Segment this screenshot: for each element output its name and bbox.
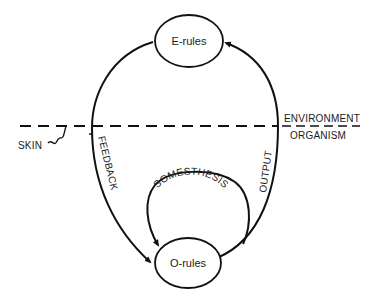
skin-label: SKIN bbox=[18, 140, 42, 151]
environment-label: ENVIRONMENT bbox=[284, 113, 360, 124]
e-rules-label: E-rules bbox=[172, 35, 207, 47]
organism-label: ORGANISM bbox=[290, 130, 346, 141]
o-rules-label: O-rules bbox=[170, 257, 207, 269]
somesthesis-label-path: SOMESTHESIS bbox=[151, 165, 231, 190]
e-rules-node: E-rules bbox=[155, 15, 223, 67]
skin-pointer bbox=[48, 126, 66, 144]
feedback-loop-diagram: E-rules O-rules ENVIRONMENT ORGANISM SKI… bbox=[0, 0, 375, 299]
o-rules-node: O-rules bbox=[155, 238, 221, 288]
somesthesis-label: SOMESTHESIS bbox=[151, 165, 231, 190]
